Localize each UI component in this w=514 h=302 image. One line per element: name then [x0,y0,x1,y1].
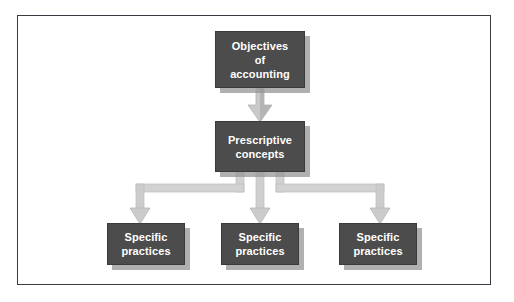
edge-prescriptive-to-practice-2 [250,172,270,224]
node-label: Specific practices [349,230,406,258]
node-specific-practices-1[interactable]: Specific practices [107,223,185,265]
node-specific-practices-3[interactable]: Specific practices [339,223,417,265]
node-objectives-of-accounting[interactable]: Objectives of accounting [215,31,305,88]
node-specific-practices-2[interactable]: Specific practices [221,223,299,265]
flowchart-diagram: Objectives of accounting Prescriptive co… [0,0,514,302]
edge-prescriptive-to-practice-3 [276,172,390,224]
node-label: Specific practices [231,230,288,258]
node-prescriptive-concepts[interactable]: Prescriptive concepts [215,121,305,172]
edge-prescriptive-to-practice-1 [130,172,244,224]
node-label: Prescriptive concepts [224,133,296,161]
node-label: Objectives of accounting [226,39,294,81]
edge-objectives-to-prescriptive [248,88,272,122]
node-label: Specific practices [117,230,174,258]
